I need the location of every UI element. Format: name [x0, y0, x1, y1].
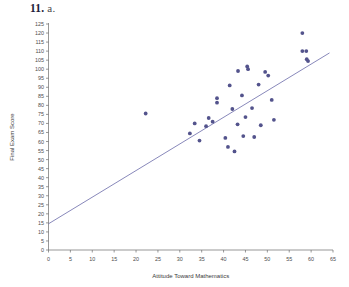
y-axis-tick-label: 55	[38, 148, 44, 154]
x-axis-tick-label: 35	[199, 256, 205, 262]
y-axis-tick-label: 85	[38, 93, 44, 99]
y-axis-tick-label: 0	[41, 247, 44, 253]
data-point	[304, 49, 308, 53]
data-point	[240, 94, 244, 98]
y-axis-tick-label: 110	[35, 48, 44, 54]
y-axis-tick-label: 75	[38, 111, 44, 117]
data-point-group	[144, 31, 310, 153]
y-axis-tick-label: 40	[38, 175, 44, 181]
data-point	[250, 106, 254, 110]
data-point	[228, 84, 232, 88]
y-axis-tick-label: 80	[38, 102, 44, 108]
chart-canvas: 0510152025303540455055606570758085909510…	[0, 0, 349, 287]
y-axis-tick-label: 105	[35, 57, 44, 63]
y-axis-tick-label: 90	[38, 84, 44, 90]
data-point	[193, 122, 197, 126]
x-axis-tick-label: 30	[177, 256, 183, 262]
x-axis-tick-label: 45	[242, 256, 248, 262]
y-axis-tick-label: 115	[35, 39, 44, 45]
data-point	[244, 115, 248, 119]
x-axis-tick-label: 65	[330, 256, 336, 262]
data-point	[236, 69, 240, 73]
y-axis-tick-label: 50	[38, 157, 44, 163]
data-point	[306, 59, 310, 63]
data-point	[211, 120, 215, 124]
data-point	[263, 70, 267, 74]
x-axis-title: Attitude Toward Mathematics	[152, 273, 229, 279]
data-point	[230, 107, 234, 111]
data-point	[300, 49, 304, 53]
y-axis-tick-label: 45	[38, 166, 44, 172]
data-point	[207, 116, 211, 120]
data-point	[257, 83, 261, 87]
data-point	[236, 122, 240, 126]
x-axis-tick-label: 50	[264, 256, 270, 262]
trend-line	[49, 53, 330, 224]
data-point	[233, 150, 237, 154]
y-axis-tick-label: 10	[38, 229, 44, 235]
x-axis-tick-label: 20	[133, 256, 139, 262]
x-axis-tick-label: 0	[47, 256, 50, 262]
x-axis-tick-label: 10	[89, 256, 95, 262]
data-point	[272, 118, 276, 122]
y-axis-tick-label: 5	[41, 238, 44, 244]
scatter-plot-figure: 11.a. 0510152025303540455055606570758085…	[0, 0, 349, 287]
x-axis-tick-label: 60	[308, 256, 314, 262]
data-point	[144, 112, 148, 116]
data-point	[252, 135, 256, 139]
x-axis-tick-label: 25	[155, 256, 161, 262]
y-axis-tick-label: 65	[38, 129, 44, 135]
y-axis-tick-label: 25	[38, 202, 44, 208]
data-point	[241, 134, 245, 138]
y-axis-tick-label: 60	[38, 139, 44, 145]
data-point	[246, 67, 250, 71]
y-axis-tick-label: 95	[38, 75, 44, 81]
data-point	[226, 145, 230, 149]
data-point	[259, 123, 263, 127]
y-axis-title: Final Exam Score	[9, 113, 15, 161]
data-point	[204, 124, 208, 128]
y-axis-tick-label: 70	[38, 120, 44, 126]
y-axis-tick-label: 15	[38, 220, 44, 226]
data-point	[266, 74, 270, 78]
data-point	[223, 136, 227, 140]
y-axis-tick-label: 120	[35, 30, 44, 36]
x-axis-tick-label: 55	[286, 256, 292, 262]
x-axis-tick-label: 5	[69, 256, 72, 262]
data-point	[188, 131, 192, 135]
data-point	[300, 31, 304, 35]
y-axis-tick-label: 35	[38, 184, 44, 190]
y-axis-tick-label: 125	[35, 21, 44, 27]
data-point	[215, 96, 219, 100]
y-axis-tick-label: 30	[38, 193, 44, 199]
data-point	[270, 98, 274, 102]
y-axis-tick-label: 100	[35, 66, 44, 72]
x-axis-tick-label: 15	[111, 256, 117, 262]
x-axis-tick-label: 40	[221, 256, 227, 262]
y-axis-tick-label: 20	[38, 211, 44, 217]
data-point	[215, 101, 219, 105]
data-point	[198, 139, 202, 143]
